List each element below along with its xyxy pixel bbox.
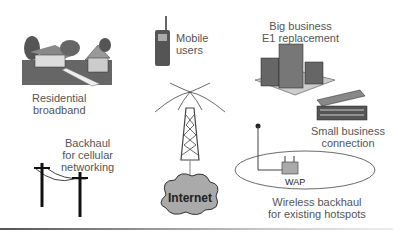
small-office-building-icon: [317, 90, 367, 120]
internet-label: Internet: [168, 192, 212, 204]
radio-tower-icon: [155, 83, 225, 182]
backhaul-cellular-label: Backhaulfor cellularnetworking: [61, 137, 114, 173]
small-business-label: Small businessconnection: [311, 125, 385, 149]
big-business-label: Big businessE1 replacement: [262, 20, 339, 44]
mobile-users-label: Mobileusers: [176, 32, 208, 56]
wireless-backhaul-label: Wireless backhaulfor existing hotspots: [268, 196, 366, 220]
mobile-phone-icon: [155, 16, 170, 66]
bottom-divider: [0, 228, 393, 230]
wap-label: WAP: [285, 176, 305, 188]
residential-label: Residentialbroadband: [32, 92, 86, 116]
houses-icon: [22, 36, 112, 86]
office-towers-icon: [255, 44, 335, 95]
